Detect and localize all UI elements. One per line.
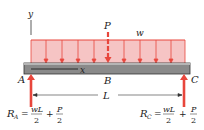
reaction-arrow-a: [27, 74, 35, 107]
reaction-a-equation: R A = wL 2 + P 2: [6, 105, 63, 125]
span-label: L: [102, 90, 110, 101]
svg-text:=: =: [21, 109, 29, 119]
x-axis-label: x: [80, 65, 85, 75]
svg-text:+: +: [179, 109, 187, 119]
svg-text:P: P: [56, 105, 63, 114]
reaction-c-equation: R C = wL 2 + P 2: [139, 105, 197, 125]
distributed-load-label: w: [136, 28, 144, 38]
svg-text:P: P: [190, 105, 197, 114]
point-b-label: B: [103, 75, 111, 86]
svg-text:C: C: [147, 113, 152, 120]
point-load-label: P: [103, 20, 111, 31]
svg-text:2: 2: [34, 116, 39, 125]
svg-text:wL: wL: [31, 105, 43, 114]
svg-text:2: 2: [57, 116, 62, 125]
support-c-label: C: [191, 74, 199, 85]
svg-text:A: A: [13, 113, 19, 120]
svg-text:wL: wL: [163, 105, 175, 114]
svg-text:=: =: [154, 109, 162, 119]
svg-text:2: 2: [191, 116, 196, 125]
reaction-arrow-c: [180, 74, 188, 107]
svg-text:2: 2: [166, 116, 171, 125]
beam-diagram: y x P w A B C L R A = wL 2 + P 2 R C = w…: [0, 0, 204, 130]
support-a-label: A: [17, 74, 25, 85]
svg-text:+: +: [46, 109, 54, 119]
y-axis-label: y: [27, 9, 34, 19]
